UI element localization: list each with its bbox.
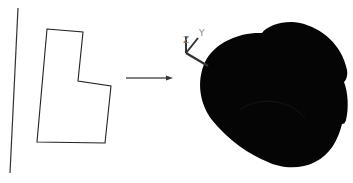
revolved-solid: [200, 22, 348, 167]
y-axis-label: Y: [198, 28, 205, 38]
rotation-axis: [10, 8, 18, 173]
transform-arrow: [126, 76, 173, 81]
coordinate-triad-icon: Z Y: [183, 28, 208, 66]
revolve-diagram: Z Y: [0, 0, 353, 183]
z-axis-label: Z: [183, 35, 189, 45]
sketch-profile: [37, 29, 111, 143]
